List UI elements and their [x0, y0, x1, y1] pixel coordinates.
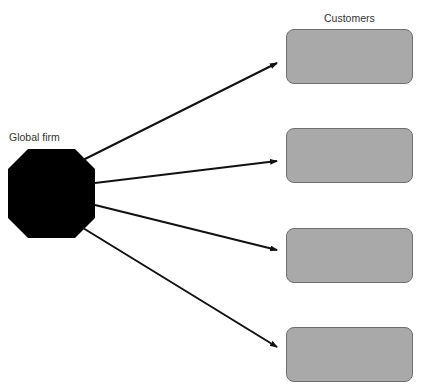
arrow-to-customer-2 [95, 161, 277, 183]
customer-box-2 [286, 128, 413, 183]
arrow-to-customer-1 [83, 63, 277, 160]
arrow-to-customer-4 [83, 228, 277, 347]
global-firm-octagon [8, 149, 95, 238]
arrow-to-customer-3 [95, 205, 277, 250]
customer-box-3 [286, 228, 413, 283]
customer-box-4 [286, 327, 413, 382]
customer-box-1 [286, 29, 413, 84]
